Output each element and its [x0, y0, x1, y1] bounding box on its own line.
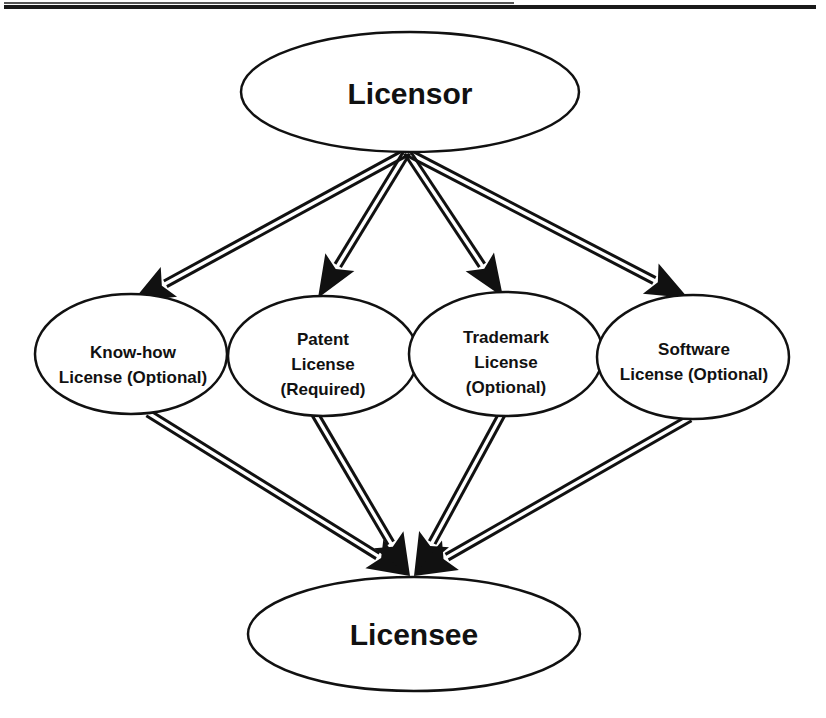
edge-shaft-line-2: [445, 415, 688, 554]
node-patent: Patent License (Required): [228, 296, 418, 416]
edge-patent-to-licensee: [312, 412, 410, 576]
node-knowhow: Know-how License (Optional): [35, 294, 227, 414]
node-software-label-line-1: Software: [658, 340, 730, 359]
node-knowhow-label-line-2: License (Optional): [59, 368, 207, 387]
edge-shaft-line-2: [146, 416, 376, 559]
node-trademark: Trademark License (Optional): [409, 292, 603, 416]
edge-shaft-line-2: [406, 155, 653, 283]
arrowhead-icon: [466, 253, 503, 297]
edge-shaft-line-1: [341, 154, 410, 268]
edge-shaft-line-2: [404, 154, 479, 267]
edge-licensor-to-software: [406, 149, 688, 298]
node-knowhow-label-line-1: Know-how: [90, 343, 177, 362]
nodes-layer: Licensor Know-how License (Optional) Pat…: [35, 32, 789, 691]
licensing-diagram: Licensor Know-how License (Optional) Pat…: [0, 0, 826, 718]
edge-shaft-line-1: [150, 410, 380, 553]
edge-shaft-line-1: [410, 150, 485, 263]
node-licensee: Licensee: [248, 577, 580, 691]
node-software: Software License (Optional): [597, 295, 789, 419]
node-patent-label-line-3: (Required): [281, 380, 366, 399]
node-trademark-label-line-3: (Optional): [466, 378, 546, 397]
edge-shaft-line-2: [164, 149, 406, 281]
edge-shaft-line-2: [429, 412, 499, 541]
edge-knowhow-to-licensee: [146, 410, 410, 576]
node-software-label-line-2: License (Optional): [620, 365, 768, 384]
node-licensor-label: Licensor: [347, 77, 472, 110]
node-licensee-label: Licensee: [350, 618, 478, 651]
edge-shaft-line-1: [167, 155, 409, 287]
node-trademark-label-line-1: Trademark: [463, 328, 550, 347]
node-patent-label-line-1: Patent: [297, 330, 349, 349]
node-licensor: Licensor: [241, 32, 579, 152]
node-trademark-label-line-2: License: [474, 353, 537, 372]
edge-trademark-to-licensee: [414, 412, 505, 576]
node-patent-label-line-2: License: [291, 355, 354, 374]
